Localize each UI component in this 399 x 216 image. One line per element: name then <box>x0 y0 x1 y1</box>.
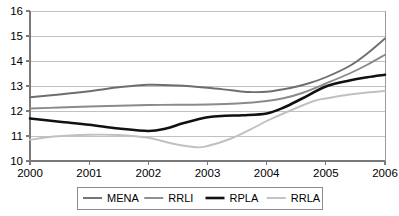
chart-figure: 10111213141516 2000200120022003200420052… <box>0 0 399 216</box>
x-tick-label: 2001 <box>76 167 102 179</box>
data-series <box>30 39 385 148</box>
y-tick-label: 16 <box>10 5 23 17</box>
y-tick-label: 10 <box>10 155 23 167</box>
series-line-rrli <box>30 55 385 109</box>
series-line-rpla <box>30 75 385 131</box>
x-tick-label: 2005 <box>313 167 339 179</box>
legend-label-rpla: RPLA <box>230 192 259 204</box>
x-tick-label: 2002 <box>136 167 162 179</box>
gridlines <box>30 11 385 161</box>
x-tick-label: 2003 <box>195 167 221 179</box>
y-axis-tick-labels: 10111213141516 <box>10 5 23 167</box>
y-tick-label: 11 <box>11 130 23 142</box>
legend-label-rrli: RRLI <box>168 192 193 204</box>
x-axis-tick-labels: 2000200120022003200420052006 <box>17 167 398 179</box>
line-chart: 10111213141516 2000200120022003200420052… <box>0 0 399 216</box>
y-tick-label: 13 <box>10 80 23 92</box>
x-tick-label: 2000 <box>17 167 43 179</box>
x-tick-label: 2004 <box>254 167 280 179</box>
series-line-rrla <box>30 91 385 147</box>
y-tick-label: 15 <box>10 30 23 42</box>
chart-legend: MENARRLIRPLARRLA <box>77 187 322 209</box>
legend-label-rrla: RRLA <box>291 192 321 204</box>
y-tick-label: 12 <box>10 105 23 117</box>
x-tick-label: 2006 <box>372 167 398 179</box>
legend-label-mena: MENA <box>107 192 139 204</box>
series-line-mena <box>30 39 385 98</box>
y-tick-label: 14 <box>10 55 23 67</box>
